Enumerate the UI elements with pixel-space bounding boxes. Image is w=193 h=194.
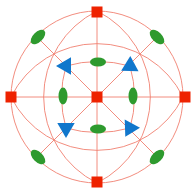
twofold-ellipse-outer-lower-left [28, 147, 48, 167]
stereographic-projection [0, 0, 193, 194]
twofold-ellipse-inner-bottom [90, 125, 106, 134]
fourfold-square-bottom [92, 177, 103, 188]
threefold-triangle-upper-left [56, 57, 71, 74]
twofold-ellipse-inner-top [90, 58, 106, 67]
fourfold-square-center [92, 92, 103, 103]
twofold-ellipse-inner-left [59, 88, 68, 105]
twofold-ellipse-outer-upper-left [28, 27, 48, 47]
threefold-triangle-lower-left [57, 123, 74, 138]
fourfold-square-right [180, 92, 191, 103]
fourfold-square-top [92, 7, 103, 18]
twofold-ellipse-inner-right [129, 88, 138, 105]
threefold-triangle-lower-right [125, 120, 140, 137]
fourfold-square-left [6, 92, 17, 103]
